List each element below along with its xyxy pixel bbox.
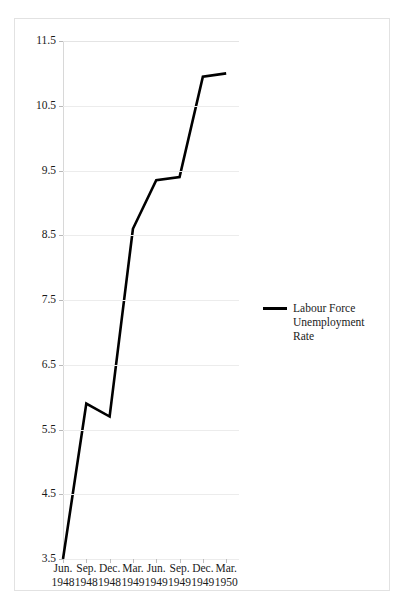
y-axis-tick-label: 5.5 <box>19 424 63 436</box>
gridline <box>63 300 239 301</box>
gridline <box>63 365 239 366</box>
gridline <box>63 171 239 172</box>
chart-legend: Labour ForceUnemployment Rate <box>263 301 387 343</box>
y-axis-tick-label: 8.5 <box>19 229 63 241</box>
y-axis-tick-label: 11.5 <box>19 35 63 47</box>
gridline <box>63 235 239 236</box>
legend-label: Labour ForceUnemployment Rate <box>293 301 387 343</box>
y-axis-tick-label: 9.5 <box>19 165 63 177</box>
x-axis-tick-labels: Jun.1948Sep.1948Dec.1948Mar.1949Jun.1949… <box>63 562 253 592</box>
gridline <box>63 559 239 560</box>
y-axis-tick-label: 7.5 <box>19 294 63 306</box>
plot-region <box>63 41 239 559</box>
y-axis-tick-label: 4.5 <box>19 488 63 500</box>
x-axis-tick-label: Mar.1950 <box>205 562 247 589</box>
series-line <box>63 73 226 559</box>
top-clipped-caption <box>0 0 405 4</box>
chart-area: 11.510.59.58.57.56.55.54.53.5 Jun.1948Se… <box>15 19 391 592</box>
legend-line-swatch <box>263 307 287 310</box>
gridline <box>63 41 239 42</box>
gridline <box>63 430 239 431</box>
y-axis-tick-label: 6.5 <box>19 359 63 371</box>
figure-frame: 11.510.59.58.57.56.55.54.53.5 Jun.1948Se… <box>14 18 390 591</box>
gridline <box>63 106 239 107</box>
gridline <box>63 494 239 495</box>
y-axis-tick-label: 10.5 <box>19 100 63 112</box>
